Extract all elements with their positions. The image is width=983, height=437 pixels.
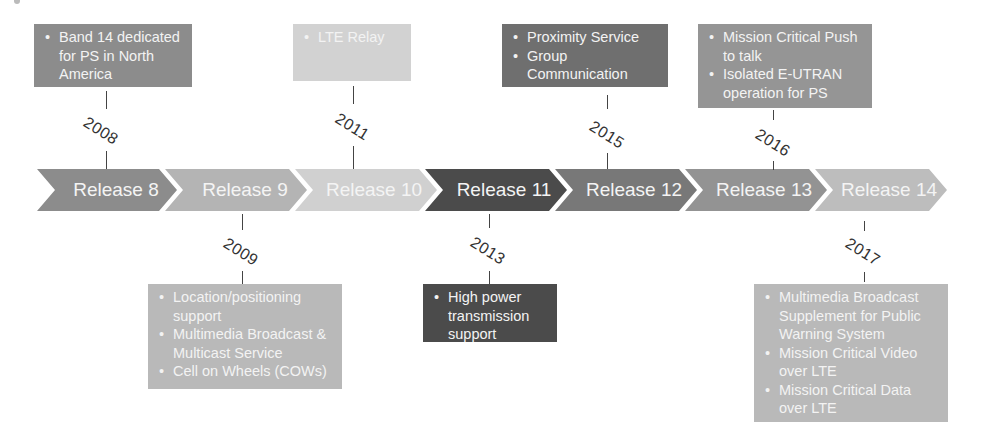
connector-line <box>607 153 608 169</box>
release-12-label: Release 12 <box>571 169 697 211</box>
release-10-label: Release 10 <box>311 169 437 211</box>
milestone-2017-item: Mission Critical Data over LTE <box>762 381 940 418</box>
milestone-2009-item: Cell on Wheels (COWs) <box>156 362 334 381</box>
connector-line <box>353 86 354 104</box>
connector-line <box>773 161 774 170</box>
release-13-label: Release 13 <box>701 169 827 211</box>
connector-line <box>242 271 243 284</box>
connector-line <box>489 271 490 284</box>
milestone-2017-item: Multimedia Broadcast Supplement for Publ… <box>762 288 940 344</box>
connector-line <box>489 214 490 228</box>
milestone-2013-list: High power transmission support <box>431 288 549 344</box>
connector-line <box>773 110 774 120</box>
connector-line <box>607 95 608 109</box>
milestone-2011-item: LTE Relay <box>301 28 403 47</box>
milestone-2008-box: Band 14 dedicated for PS in North Americ… <box>34 24 192 87</box>
release-9-label: Release 9 <box>183 169 307 211</box>
milestone-2008-item: Band 14 dedicated for PS in North Americ… <box>42 28 184 84</box>
milestone-2013-box: High power transmission support <box>423 284 557 342</box>
milestone-2008-list: Band 14 dedicated for PS in North Americ… <box>42 28 184 84</box>
release-8-label: Release 8 <box>55 169 177 211</box>
milestone-2015-item: Proximity Service <box>510 28 660 47</box>
milestone-2011-box: LTE Relay <box>293 24 411 81</box>
milestone-2016-item: Isolated E-UTRAN operation for PS <box>706 65 864 102</box>
milestone-2009-list: Location/positioning support Multimedia … <box>156 288 334 381</box>
milestone-2017-list: Multimedia Broadcast Supplement for Publ… <box>762 288 940 418</box>
milestone-2016-item: Mission Critical Push to talk <box>706 28 864 65</box>
milestone-2016-box: Mission Critical Push to talk Isolated E… <box>698 24 872 108</box>
milestone-2015-item: Group Communication <box>510 47 660 84</box>
milestone-2016-list: Mission Critical Push to talk Isolated E… <box>706 28 864 102</box>
connector-line <box>353 146 354 169</box>
connector-line <box>242 214 243 230</box>
milestone-2015-list: Proximity Service Group Communication <box>510 28 660 84</box>
release-timeline-diagram: Release 8 Release 9 Release 10 Release 1… <box>0 0 983 437</box>
milestone-2013-item: High power transmission support <box>431 288 549 344</box>
release-14-label: Release 14 <box>831 169 947 211</box>
release-11-label: Release 11 <box>441 169 567 211</box>
milestone-2009-item: Location/positioning support <box>156 288 334 325</box>
milestone-2011-list: LTE Relay <box>301 28 403 47</box>
connector-line <box>864 221 865 231</box>
connector-line <box>106 151 107 169</box>
milestone-2017-box: Multimedia Broadcast Supplement for Publ… <box>754 284 948 422</box>
milestone-2015-box: Proximity Service Group Communication <box>502 24 668 87</box>
milestone-2009-box: Location/positioning support Multimedia … <box>148 284 342 389</box>
milestone-2009-item: Multimedia Broadcast & Multicast Service <box>156 325 334 362</box>
connector-line <box>106 91 107 109</box>
milestone-2017-item: Mission Critical Video over LTE <box>762 344 940 381</box>
connector-line <box>864 272 865 282</box>
